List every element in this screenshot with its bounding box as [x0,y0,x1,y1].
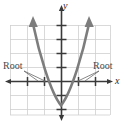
x-axis-label: x [115,76,119,86]
root-label-left: Root [3,61,22,71]
y-axis-label: y [63,1,67,11]
parabola-arrow-left [29,16,38,27]
x-axis [5,79,113,84]
parabola-arrow-right [85,16,94,27]
y-axis-arrow-down [59,115,64,121]
root-label-right: Root [93,61,112,71]
x-axis-arrow-right [107,79,113,84]
parabola-roots-figure: y x Root Root [0,0,125,123]
x-axis-arrow-left [5,79,11,84]
